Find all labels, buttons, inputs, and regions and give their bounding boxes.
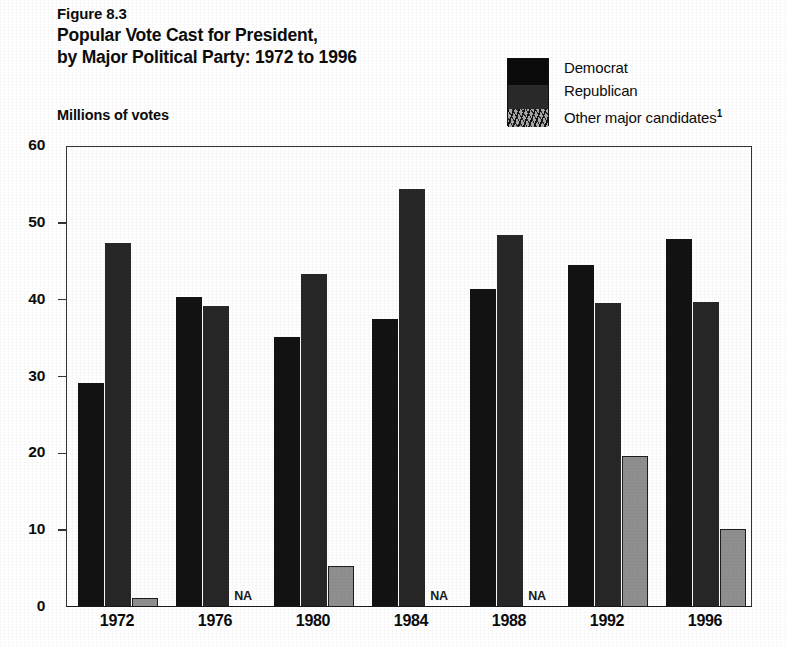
na-label-1976: NA [230, 589, 256, 603]
legend-footnote-marker: 1 [717, 108, 722, 119]
bar-democrat-1992 [568, 265, 594, 606]
legend-label-list: Democrat Republican Other major candidat… [564, 56, 722, 129]
y-axis-unit-label: Millions of votes [57, 107, 169, 123]
x-tick-label-1992: 1992 [555, 612, 659, 630]
x-tick-label-1988: 1988 [457, 612, 561, 630]
legend-label-other-text: Other major candidates [564, 109, 717, 126]
legend-label-democrat: Democrat [564, 56, 722, 79]
y-tick-label-60: 60 [28, 140, 45, 150]
bar-other-1992 [622, 456, 648, 606]
bar-democrat-1984 [372, 319, 398, 606]
bar-democrat-1996 [666, 239, 692, 606]
legend-label-republican: Republican [564, 79, 722, 102]
bar-republican-1972 [105, 243, 131, 606]
bar-other-1980 [328, 566, 354, 606]
na-label-1988: NA [524, 589, 550, 603]
y-tick-label-20: 20 [28, 447, 45, 457]
y-tick-label-50: 50 [28, 217, 45, 227]
title-line-2: by Major Political Party: 1972 to 1996 [57, 46, 357, 68]
bar-republican-1984 [399, 189, 425, 606]
plot-area: NANANA [66, 146, 752, 607]
bar-democrat-1976 [176, 297, 202, 606]
legend-swatch-stack [507, 58, 549, 126]
x-tick-label-1984: 1984 [359, 612, 463, 630]
bar-republican-1996 [693, 302, 719, 606]
x-tick-label-1976: 1976 [163, 612, 267, 630]
legend-swatch-democrat [508, 59, 548, 85]
bar-other-1996 [720, 529, 746, 606]
title-line-1: Popular Vote Cast for President, [57, 24, 357, 46]
legend-swatch-other [508, 109, 548, 127]
bar-democrat-1980 [274, 337, 300, 606]
bar-democrat-1972 [78, 383, 104, 606]
legend-swatch-republican [508, 85, 548, 109]
bar-republican-1988 [497, 235, 523, 606]
bar-republican-1980 [301, 274, 327, 606]
x-tick-label-1980: 1980 [261, 612, 365, 630]
y-tick-label-40: 40 [28, 294, 45, 304]
y-tick-label-0: 0 [37, 601, 45, 611]
x-tick-label-1972: 1972 [65, 612, 169, 630]
bar-other-1972 [132, 598, 158, 606]
bar-republican-1992 [595, 303, 621, 606]
y-tick-label-30: 30 [28, 371, 45, 381]
page-title: Popular Vote Cast for President, by Majo… [57, 24, 357, 68]
y-tick-label-10: 10 [28, 524, 45, 534]
chart-legend: Democrat Republican Other major candidat… [507, 58, 767, 128]
legend-label-other: Other major candidates1 [564, 102, 722, 129]
bar-democrat-1988 [470, 289, 496, 606]
x-tick-label-1996: 1996 [653, 612, 757, 630]
figure-label: Figure 8.3 [57, 5, 127, 22]
na-label-1984: NA [426, 589, 452, 603]
bar-republican-1976 [203, 306, 229, 606]
